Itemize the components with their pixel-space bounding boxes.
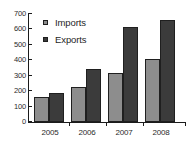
x-tick-3 [143,123,144,126]
x-axis-label-2005: 2005 [35,128,65,137]
chart-legend: Imports Exports [43,16,87,50]
legend-item-exports: Exports [43,33,87,46]
x-axis-label-2008: 2008 [146,128,176,137]
y-axis-label-300: 300 [2,72,26,80]
y-axis-label-100: 100 [2,103,26,111]
legend-item-imports: Imports [43,16,87,29]
legend-label-imports: Imports [55,18,86,28]
x-tick-1 [69,123,70,126]
bar-chart: 700 600 500 400 300 200 100 0 [0,0,194,150]
bar-exports-2005 [49,93,64,122]
bar-exports-2006 [86,69,101,122]
y-axis-labels: 700 600 500 400 300 200 100 0 [0,0,26,150]
bar-group-2007 [108,14,142,122]
y-axis-label-0: 0 [2,118,26,126]
bar-imports-2006 [71,87,86,123]
bar-imports-2005 [34,97,49,122]
legend-label-exports: Exports [55,35,87,45]
x-axis-label-2007: 2007 [109,128,139,137]
bar-imports-2008 [145,59,160,122]
x-tick-2 [106,123,107,126]
x-tick-4 [185,123,186,126]
y-axis-label-600: 600 [2,25,26,33]
legend-swatch-exports-icon [43,37,48,42]
bar-imports-2007 [108,73,123,122]
y-axis-label-400: 400 [2,56,26,64]
y-axis-label-500: 500 [2,41,26,49]
legend-swatch-imports-icon [43,20,48,25]
y-axis-label-700: 700 [2,10,26,18]
x-axis-label-2006: 2006 [72,128,102,137]
x-axis-line [28,122,186,123]
bar-group-2008 [145,14,179,122]
bar-exports-2008 [160,20,175,122]
bar-exports-2007 [123,27,138,122]
y-axis-label-200: 200 [2,87,26,95]
